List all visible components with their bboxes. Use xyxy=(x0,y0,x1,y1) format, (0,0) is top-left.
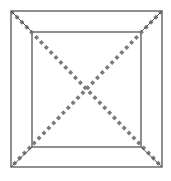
frustum-diagram xyxy=(0,0,171,181)
